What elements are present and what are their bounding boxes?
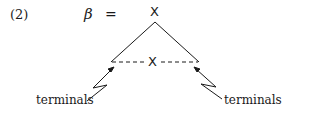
right-edge (155, 22, 199, 62)
tree-triangle (111, 22, 199, 62)
terminals-label-left: terminals (36, 94, 94, 106)
terminals-label-right: terminals (224, 94, 282, 106)
left-edge (111, 22, 155, 62)
right-zigzag-arrow-icon (194, 67, 222, 99)
